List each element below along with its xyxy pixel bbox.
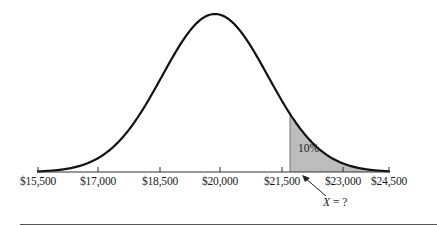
normal-curve: [37, 14, 390, 171]
x-arrow-shaft: [305, 178, 326, 196]
x-tick-label: $18,500: [142, 175, 178, 187]
x-tick-label: $20,000: [202, 175, 238, 187]
x-tick-label: $15,500: [20, 175, 56, 187]
x-tick-label: $24,500: [371, 175, 407, 187]
tail-area-label: 10%: [298, 142, 319, 154]
x-tick-label: $23,000: [325, 175, 361, 187]
x-tick-label: $21,500: [264, 175, 300, 187]
x-variable: X: [323, 196, 330, 208]
normal-curve-chart: [0, 0, 437, 226]
x-tick-label: $17,000: [80, 175, 116, 187]
x-unknown-label: X = ?: [323, 196, 347, 208]
x-equals-question: = ?: [330, 196, 347, 208]
